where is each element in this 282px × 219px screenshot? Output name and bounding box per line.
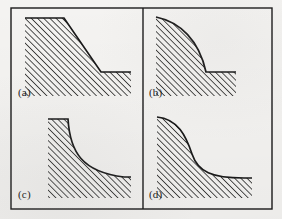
- panel-label-b: (b): [149, 86, 162, 98]
- panel-label-d: (d): [149, 188, 162, 200]
- slope-profile-figure: (a) (b) (c) (d): [0, 0, 282, 219]
- panel-label-a: (a): [18, 86, 31, 98]
- figure-canvas: [0, 0, 282, 219]
- panel-label-c: (c): [18, 188, 31, 200]
